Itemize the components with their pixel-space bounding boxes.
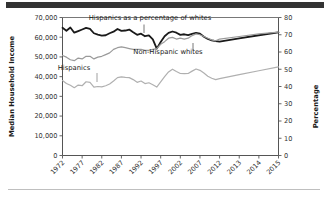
left-tick-label: 20,000 <box>34 112 57 120</box>
left-tick-label: 10,000 <box>34 132 57 140</box>
right-axis-title: Percentage <box>312 84 320 128</box>
bottom-decorative-rule <box>8 189 320 190</box>
x-tick-label: 1992 <box>127 159 145 177</box>
right-tick-label: 20 <box>284 117 292 125</box>
left-tick-label: 70,000 <box>34 14 57 22</box>
left-tick-label: 0 <box>53 152 57 160</box>
left-tick-label: 30,000 <box>34 93 57 101</box>
right-tick-label: 40 <box>284 83 292 91</box>
annotation-hispanics: Hispanics <box>58 64 91 72</box>
right-tick-label: 60 <box>284 48 292 56</box>
left-tick-label: 40,000 <box>34 73 57 81</box>
x-tick-label: 2015 <box>265 159 283 177</box>
right-tick-label: 50 <box>284 66 292 74</box>
x-tick-label: 2013 <box>226 159 244 177</box>
x-tick-label: 2007 <box>186 159 204 177</box>
left-tick-label: 50,000 <box>34 53 57 61</box>
x-tick-label: 2014 <box>245 159 263 177</box>
x-tick-label: 2002 <box>167 159 185 177</box>
x-tick-label: 1982 <box>88 159 106 177</box>
x-tick-label: 1987 <box>108 159 126 177</box>
annotation-non-hispanic-whites: Non-Hispanic whites <box>133 48 203 56</box>
right-tick-label: 30 <box>284 100 292 108</box>
right-tick-label: 80 <box>284 14 292 22</box>
right-tick-label: 70 <box>284 31 292 39</box>
line-chart: 010,00020,00030,00040,00050,00060,00070,… <box>0 0 330 198</box>
x-tick-label: 1972 <box>49 159 67 177</box>
series-line-hispanics <box>63 67 279 88</box>
right-tick-label: 0 <box>284 152 288 160</box>
figure-container: 010,00020,00030,00040,00050,00060,00070,… <box>0 0 330 198</box>
x-tick-label: 2012 <box>206 159 224 177</box>
left-tick-label: 60,000 <box>34 34 57 42</box>
annotation-hispanics-percentage-of-whites: Hispanics as a percentage of whites <box>89 14 212 22</box>
x-tick-label: 1997 <box>147 159 165 177</box>
right-tick-label: 10 <box>284 135 292 143</box>
x-tick-label: 1977 <box>69 159 87 177</box>
left-axis-title: Median Household Income <box>8 36 16 137</box>
